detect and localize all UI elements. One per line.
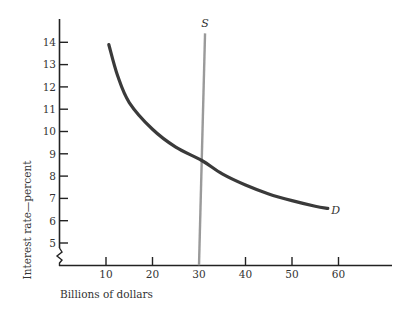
x-tick-label: 60 [332, 268, 345, 280]
y-tick-label: 12 [43, 81, 56, 93]
demand-label: D [330, 204, 340, 217]
x-axis-ticks: 102030405060 [99, 257, 345, 280]
x-tick-label: 20 [146, 268, 159, 280]
supply-label: S [201, 17, 209, 30]
y-axis-break-icon [57, 248, 62, 266]
y-tick-label: 10 [43, 125, 56, 137]
x-tick-label: 10 [99, 268, 112, 280]
x-tick-label: 30 [192, 268, 205, 280]
y-tick-label: 14 [43, 36, 57, 48]
y-tick-label: 13 [43, 58, 56, 70]
supply-demand-chart: 567891011121314 102030405060 S D Interes… [0, 0, 412, 310]
x-tick-label: 50 [285, 268, 298, 280]
x-tick-label: 40 [239, 268, 252, 280]
y-tick-label: 8 [49, 170, 56, 182]
y-axis-ticks: 567891011121314 [43, 36, 68, 249]
y-axis-title: Interest rate—percent [21, 160, 33, 280]
demand-curve-d [109, 45, 328, 209]
x-axis-title: Billions of dollars [60, 288, 153, 300]
y-tick-label: 9 [49, 148, 56, 160]
y-tick-label: 5 [49, 237, 56, 249]
y-tick-label: 7 [49, 192, 56, 204]
y-tick-label: 6 [49, 215, 56, 227]
supply-line-s [199, 33, 205, 265]
y-tick-label: 11 [43, 103, 56, 115]
